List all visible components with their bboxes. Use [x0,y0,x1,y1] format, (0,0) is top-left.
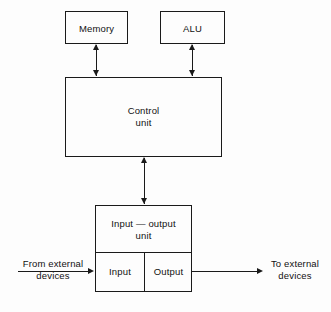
external-output-connector-line [192,271,258,272]
control-unit-block-label: Control unit [66,105,221,128]
control-io-arrowhead-up-icon [141,157,147,163]
external-output-arrowhead-right-icon [257,268,263,274]
control-unit-block: Control unit [65,77,222,157]
control-io-arrowhead-down-icon [141,198,147,204]
alu-control-arrowhead-up-icon [189,44,195,50]
memory-control-arrowhead-up-icon [93,44,99,50]
memory-block: Memory [65,11,128,44]
memory-control-arrowhead-down-icon [93,70,99,76]
alu-block: ALU [160,11,225,44]
alu-control-arrowhead-down-icon [189,70,195,76]
output-sub-block-label: Output [144,266,193,278]
input-output-unit-label: Input — output unit [96,218,191,241]
to-external-devices-label: To external devices [264,258,326,282]
architecture-diagram: Memory ALU Control unit Input — output u… [0,0,331,312]
memory-block-label: Memory [66,23,127,35]
input-output-unit-block: Input — output unit Input Output [95,205,192,292]
alu-block-label: ALU [161,23,224,35]
input-sub-block-label: Input [96,266,144,278]
from-external-devices-label: From external devices [14,258,92,282]
